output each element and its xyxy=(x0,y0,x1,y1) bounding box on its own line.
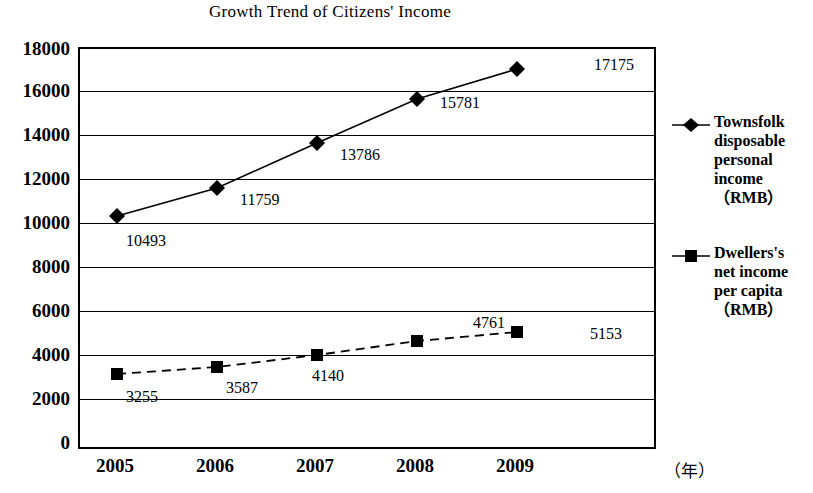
chart-title: Growth Trend of Citizens' Income xyxy=(0,2,660,22)
data-label-dwellers-2007: 4140 xyxy=(312,367,344,385)
square-marker-icon xyxy=(672,249,710,263)
legend-label-townsfolk: Townsfolk disposable personal income （RM… xyxy=(714,112,812,207)
legend-label-townsfolk-line1: Townsfolk xyxy=(714,112,812,131)
y-tick-2000: 2000 xyxy=(0,388,70,410)
y-tick-18000: 18000 xyxy=(0,38,70,60)
data-label-dwellers-2009: 5153 xyxy=(590,325,622,343)
y-tick-14000: 14000 xyxy=(0,124,70,146)
legend-label-dwellers-line4: （RMB） xyxy=(714,300,812,319)
legend-label-townsfolk-line5: （RMB） xyxy=(714,188,812,207)
legend-label-dwellers-line1: Dwellers's xyxy=(714,243,812,262)
y-tick-12000: 12000 xyxy=(0,168,70,190)
diamond-marker-icon xyxy=(672,118,710,132)
x-tick-2008: 2008 xyxy=(370,455,460,477)
data-label-townsfolk-2006: 11759 xyxy=(240,191,279,209)
x-tick-2009: 2009 xyxy=(470,455,560,477)
y-tick-8000: 8000 xyxy=(0,256,70,278)
x-tick-2007: 2007 xyxy=(270,455,360,477)
legend-label-dwellers: Dwellers's net income per capita （RMB） xyxy=(714,243,812,319)
series-svg xyxy=(80,49,654,447)
legend-label-dwellers-line3: per capita xyxy=(714,281,812,300)
y-tick-16000: 16000 xyxy=(0,80,70,102)
y-tick-6000: 6000 xyxy=(0,300,70,322)
legend-entry-dwellers[interactable]: Dwellers's net income per capita （RMB） xyxy=(672,243,812,319)
legend-label-townsfolk-line2: disposable xyxy=(714,131,812,150)
data-label-dwellers-2005: 3255 xyxy=(126,388,158,406)
x-axis-unit-label: （年） xyxy=(664,457,715,482)
legend-label-townsfolk-line4: income xyxy=(714,169,812,188)
x-tick-2005: 2005 xyxy=(70,455,160,477)
legend-label-townsfolk-line3: personal xyxy=(714,150,812,169)
data-label-townsfolk-2008: 15781 xyxy=(440,94,480,112)
legend-label-dwellers-line2: net income xyxy=(714,262,812,281)
chart-container: Growth Trend of Citizens' Income 18000 1… xyxy=(0,0,813,493)
legend-entry-townsfolk[interactable]: Townsfolk disposable personal income （RM… xyxy=(672,112,812,207)
data-label-townsfolk-2009: 17175 xyxy=(594,56,634,74)
chart-legend: Townsfolk disposable personal income （RM… xyxy=(672,112,812,341)
y-tick-4000: 4000 xyxy=(0,344,70,366)
y-tick-10000: 10000 xyxy=(0,212,70,234)
data-label-dwellers-2008: 4761 xyxy=(473,314,505,332)
data-label-dwellers-2006: 3587 xyxy=(226,379,258,397)
y-tick-0: 0 xyxy=(0,432,70,454)
x-tick-2006: 2006 xyxy=(170,455,260,477)
data-label-townsfolk-2005: 10493 xyxy=(126,232,166,250)
data-label-townsfolk-2007: 13786 xyxy=(340,146,380,164)
